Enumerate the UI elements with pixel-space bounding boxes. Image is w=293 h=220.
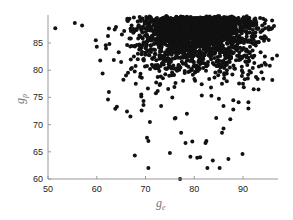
data-point xyxy=(106,34,110,38)
data-point xyxy=(249,71,253,75)
data-point xyxy=(262,39,266,43)
data-point xyxy=(140,52,144,56)
data-point xyxy=(191,60,195,64)
data-point xyxy=(222,104,226,108)
data-point xyxy=(204,69,208,73)
data-point xyxy=(161,61,165,65)
data-point xyxy=(231,22,235,26)
data-point xyxy=(253,34,257,38)
data-point xyxy=(211,159,215,163)
data-point xyxy=(168,151,172,155)
data-point xyxy=(167,22,171,26)
data-point xyxy=(218,166,222,170)
data-point xyxy=(129,57,133,61)
data-point xyxy=(121,78,125,82)
data-point xyxy=(275,53,279,57)
data-point xyxy=(112,58,116,62)
data-point xyxy=(156,89,160,93)
data-point xyxy=(169,25,173,29)
data-point xyxy=(171,73,175,77)
data-point xyxy=(225,35,229,39)
data-point xyxy=(159,75,163,79)
data-point xyxy=(166,87,170,91)
data-point xyxy=(220,82,224,86)
data-point xyxy=(185,112,189,116)
data-point xyxy=(163,72,167,76)
data-point xyxy=(177,51,181,55)
data-point xyxy=(114,25,118,29)
data-point xyxy=(156,43,160,47)
data-point xyxy=(220,59,224,63)
data-point xyxy=(146,166,150,170)
data-point xyxy=(251,49,255,53)
data-point xyxy=(200,27,204,31)
data-point xyxy=(163,25,167,29)
data-point xyxy=(173,117,177,121)
data-point xyxy=(259,36,263,40)
data-point xyxy=(125,19,129,23)
data-point xyxy=(217,48,221,52)
data-point xyxy=(179,56,183,60)
data-point xyxy=(106,98,110,102)
data-point xyxy=(222,73,226,77)
data-point xyxy=(149,43,153,47)
data-point xyxy=(104,46,108,50)
data-point xyxy=(159,34,163,38)
data-point xyxy=(131,31,135,35)
data-point xyxy=(259,30,263,34)
data-point xyxy=(234,46,238,50)
data-point xyxy=(241,82,245,86)
x-tick-label: 90 xyxy=(238,184,248,194)
data-point xyxy=(222,126,226,130)
y-label-sub: p xyxy=(20,94,29,99)
data-point xyxy=(194,19,198,23)
x-tick-label: 60 xyxy=(92,184,102,194)
data-point xyxy=(257,87,261,91)
data-point xyxy=(261,77,265,81)
data-point xyxy=(133,70,137,74)
data-point xyxy=(200,32,204,36)
data-point xyxy=(184,141,188,145)
data-point xyxy=(151,57,155,61)
data-point xyxy=(132,16,136,20)
y-axis-label: gp xyxy=(13,94,29,104)
data-point xyxy=(188,32,192,36)
data-point xyxy=(264,18,268,22)
data-point xyxy=(139,72,143,76)
data-point xyxy=(228,60,232,64)
data-point xyxy=(175,69,179,73)
data-point xyxy=(206,60,210,64)
y-tick-label: 70 xyxy=(33,120,43,130)
data-point xyxy=(172,85,176,89)
data-point xyxy=(188,155,192,159)
x-tick-label: 70 xyxy=(140,184,150,194)
data-point xyxy=(132,55,136,59)
data-point xyxy=(175,25,179,29)
data-point xyxy=(174,42,178,46)
data-point xyxy=(159,104,163,108)
data-point xyxy=(161,57,165,61)
data-point xyxy=(188,69,192,73)
data-point xyxy=(139,19,143,23)
data-point xyxy=(95,45,99,49)
data-point xyxy=(149,50,153,54)
data-point xyxy=(184,63,188,67)
data-point xyxy=(145,34,149,38)
data-point xyxy=(256,77,260,81)
data-point xyxy=(248,51,252,55)
x-tick-label: 80 xyxy=(189,184,199,194)
data-point xyxy=(150,27,154,31)
data-point xyxy=(142,99,146,103)
data-point xyxy=(171,50,175,54)
data-point xyxy=(253,17,257,21)
scatter-chart: 5060708090 606570758085 ge gp xyxy=(0,0,293,220)
data-point xyxy=(233,25,237,29)
data-point xyxy=(192,65,196,69)
data-point xyxy=(257,40,261,44)
data-point xyxy=(263,55,267,59)
data-point xyxy=(206,18,210,22)
data-point xyxy=(163,18,167,22)
data-point xyxy=(242,85,246,89)
data-point xyxy=(138,45,142,49)
data-point xyxy=(190,140,194,144)
